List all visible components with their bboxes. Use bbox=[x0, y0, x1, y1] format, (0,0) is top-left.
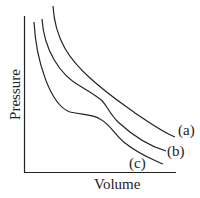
curve-b-label: (b) bbox=[167, 143, 185, 160]
pv-diagram bbox=[0, 0, 200, 198]
x-axis-label: Volume bbox=[94, 176, 140, 193]
y-axis-label: Pressure bbox=[7, 60, 24, 130]
curve-c bbox=[34, 22, 163, 164]
curve-a-label: (a) bbox=[178, 122, 195, 139]
curve-c-label: (c) bbox=[129, 155, 146, 172]
